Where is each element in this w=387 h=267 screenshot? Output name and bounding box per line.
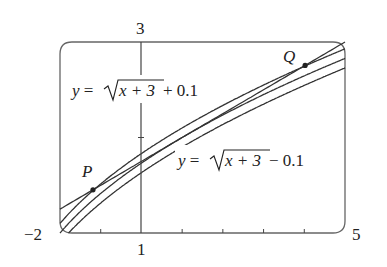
ymax-label: 3 bbox=[136, 19, 145, 38]
viewing-frame bbox=[60, 42, 345, 233]
ymin-label: 1 bbox=[137, 240, 146, 259]
plot-area: 3 1 −2 5 y = x + 3 + 0.1 y = x + 3 − 0.1… bbox=[0, 0, 387, 267]
xmax-label: 5 bbox=[352, 225, 361, 244]
svg-text:x + 3: x + 3 bbox=[224, 151, 261, 170]
point-P-label: P bbox=[81, 162, 92, 181]
svg-text:y =: y = bbox=[176, 151, 199, 170]
lower-curve-label: y = x + 3 − 0.1 bbox=[175, 145, 310, 173]
point-Q bbox=[303, 63, 308, 68]
linear-approximation bbox=[60, 42, 345, 209]
svg-text:x + 3: x + 3 bbox=[118, 81, 155, 100]
xmin-label: −2 bbox=[24, 225, 42, 244]
upper-curve-label: y = x + 3 + 0.1 bbox=[70, 75, 198, 103]
svg-text:y =: y = bbox=[70, 81, 93, 100]
point-Q-label: Q bbox=[283, 47, 295, 66]
curves-group bbox=[60, 42, 345, 233]
svg-text:+ 0.1: + 0.1 bbox=[163, 81, 198, 100]
point-P bbox=[90, 187, 95, 192]
svg-text:− 0.1: − 0.1 bbox=[269, 151, 304, 170]
